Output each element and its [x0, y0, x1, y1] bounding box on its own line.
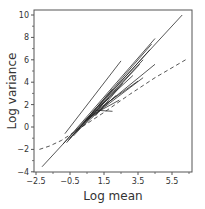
- x-tick-label: 3.5: [132, 177, 145, 186]
- y-tick-label: 0: [24, 123, 29, 132]
- x-axis-title: Log mean: [83, 189, 142, 203]
- y-tick-label: 2: [24, 101, 29, 110]
- data-segment: [75, 98, 109, 133]
- data-segment: [67, 89, 113, 143]
- y-tick-label: −4: [17, 168, 29, 177]
- x-tick-label: 5.5: [166, 177, 179, 186]
- chart: −4−20246810−2.5−0.51.53.55.5 Log mean Lo…: [0, 0, 205, 209]
- dashed-reference-curve: [39, 60, 185, 150]
- data-series: [63, 39, 155, 144]
- data-segment: [65, 61, 121, 134]
- y-tick-label: 4: [24, 78, 29, 87]
- data-segment: [63, 39, 155, 144]
- x-tick-label: 1.5: [98, 177, 111, 186]
- x-tick-label: −0.5: [60, 177, 79, 186]
- y-tick-label: 8: [24, 33, 29, 42]
- x-tick-label: −2.5: [26, 177, 45, 186]
- y-tick-label: 6: [24, 56, 29, 65]
- y-axis-title: Log variance: [5, 53, 19, 130]
- y-tick-label: −2: [17, 145, 29, 154]
- y-tick-label: 10: [19, 11, 29, 20]
